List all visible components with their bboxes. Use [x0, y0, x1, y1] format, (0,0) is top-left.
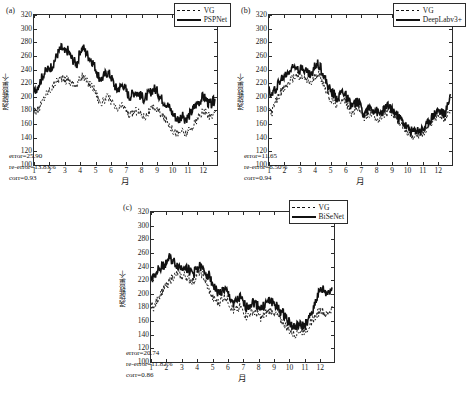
y-tick-mark	[269, 97, 272, 98]
y-tick-label: 280	[138, 236, 149, 244]
panel-b: 涡旋数量/个 100120140160180200220240260280300…	[235, 0, 470, 198]
x-tick-label: 10	[404, 167, 412, 175]
x-tick-mark	[142, 162, 143, 165]
legend-label-vg-a: VG	[204, 7, 215, 15]
y-tick-label: 140	[256, 134, 267, 142]
x-tick-mark	[346, 162, 347, 165]
y-tick-mark	[269, 29, 272, 30]
y-tick-mark	[449, 56, 452, 57]
y-tick-label: 180	[138, 304, 149, 312]
x-tick-label: 8	[140, 167, 144, 175]
y-tick-mark	[34, 83, 37, 84]
legend-row-model-b: DeepLabv3+	[396, 15, 462, 24]
y-tick-mark	[449, 124, 452, 125]
x-axis-label-c: 月	[150, 374, 335, 383]
x-tick-mark	[213, 359, 214, 362]
x-tick-mark	[269, 15, 270, 18]
x-tick-mark	[96, 162, 97, 165]
x-tick-label: 4	[195, 364, 199, 372]
y-tick-mark	[34, 70, 37, 71]
y-tick-label: 320	[256, 11, 267, 19]
x-tick-mark	[438, 162, 439, 165]
stat-error-c: error=20.74	[126, 348, 173, 359]
y-tick-label: 280	[21, 39, 32, 47]
y-tick-mark	[269, 83, 272, 84]
x-tick-mark	[166, 212, 167, 215]
x-tick-mark	[228, 359, 229, 362]
y-tick-mark	[269, 110, 272, 111]
y-tick-mark	[331, 267, 334, 268]
y-tick-label: 220	[256, 79, 267, 87]
y-tick-mark	[331, 321, 334, 322]
x-tick-mark	[80, 162, 81, 165]
y-tick-mark	[214, 151, 217, 152]
panel-c: 涡旋数量/个 100120140160180200220240260280300…	[117, 197, 352, 395]
series-canvas-a	[34, 15, 217, 165]
y-tick-label: 160	[256, 120, 267, 128]
x-tick-label: 11	[419, 167, 426, 175]
x-tick-mark	[228, 212, 229, 215]
x-tick-mark	[197, 212, 198, 215]
panel-a: 涡旋数量/个 100120140160180200220240260280300…	[0, 0, 235, 198]
x-tick-mark	[111, 15, 112, 18]
x-tick-label: 10	[286, 364, 294, 372]
x-tick-mark	[274, 359, 275, 362]
y-tick-mark	[214, 56, 217, 57]
stat-error-b: error=11.65	[244, 151, 287, 162]
y-tick-mark	[331, 239, 334, 240]
x-tick-mark	[377, 162, 378, 165]
y-tick-label: 300	[256, 25, 267, 33]
y-tick-mark	[34, 56, 37, 57]
y-tick-mark	[34, 124, 37, 125]
y-tick-mark	[449, 83, 452, 84]
y-tick-mark	[331, 307, 334, 308]
x-tick-mark	[300, 162, 301, 165]
y-tick-mark	[331, 294, 334, 295]
x-tick-label: 3	[180, 364, 184, 372]
legend-label-vg-b: VG	[423, 7, 434, 15]
dashed-line-icon	[177, 7, 201, 15]
x-tick-mark	[407, 162, 408, 165]
y-tick-mark	[449, 138, 452, 139]
legend-row-model-c: BiSeNet	[292, 212, 344, 221]
x-tick-label: 1	[32, 167, 36, 175]
series-line-model-c	[151, 253, 333, 330]
y-tick-mark	[331, 226, 334, 227]
y-tick-mark	[449, 70, 452, 71]
x-tick-mark	[151, 212, 152, 215]
plot-area-a	[33, 14, 218, 166]
y-tick-label: 160	[138, 317, 149, 325]
y-tick-mark	[151, 335, 154, 336]
y-tick-labels-a: 100120140160180200220240260280300320	[10, 14, 32, 166]
x-tick-mark	[197, 359, 198, 362]
y-tick-labels-c: 100120140160180200220240260280300320	[127, 211, 149, 363]
series-canvas-c	[151, 212, 334, 362]
stat-error-a: error=25.90	[9, 151, 56, 162]
x-tick-mark	[331, 15, 332, 18]
x-tick-label: 12	[434, 167, 442, 175]
x-tick-label: 7	[241, 364, 245, 372]
x-tick-mark	[284, 15, 285, 18]
y-tick-label: 180	[21, 107, 32, 115]
x-tick-label: 10	[169, 167, 177, 175]
y-tick-mark	[34, 110, 37, 111]
x-tick-mark	[331, 162, 332, 165]
x-tick-label: 6	[109, 167, 113, 175]
y-tick-mark	[214, 138, 217, 139]
x-tick-mark	[157, 15, 158, 18]
y-tick-mark	[214, 165, 217, 166]
x-tick-mark	[188, 162, 189, 165]
panel-tag-a: (a)	[6, 7, 15, 15]
y-tick-mark	[331, 253, 334, 254]
x-tick-mark	[320, 359, 321, 362]
x-tick-mark	[126, 15, 127, 18]
x-tick-label: 6	[344, 167, 348, 175]
x-tick-label: 7	[124, 167, 128, 175]
y-tick-label: 220	[138, 276, 149, 284]
solid-line-icon	[177, 16, 201, 24]
y-tick-mark	[331, 280, 334, 281]
x-tick-mark	[243, 212, 244, 215]
x-tick-mark	[243, 359, 244, 362]
x-axis-label-a: 月	[33, 177, 218, 186]
x-tick-label: 6	[226, 364, 230, 372]
